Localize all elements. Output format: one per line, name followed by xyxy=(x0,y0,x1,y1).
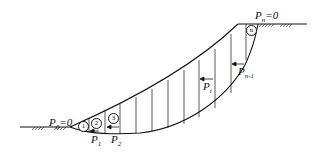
label-pi: Pi xyxy=(203,81,212,95)
slice-2-marker: 2 xyxy=(91,118,102,129)
slope-surface xyxy=(70,24,238,127)
label-p0: P0=0 xyxy=(49,117,72,131)
label-pn: Pn=0 xyxy=(255,10,278,24)
label-pn-1: Pn-1 xyxy=(238,66,254,80)
slice-1-marker: 1 xyxy=(78,121,89,132)
slice-n-marker: n xyxy=(246,25,257,36)
slice-3-marker: 3 xyxy=(108,113,119,124)
label-p2: P2 xyxy=(111,134,121,148)
label-p1: P1 xyxy=(91,134,101,148)
